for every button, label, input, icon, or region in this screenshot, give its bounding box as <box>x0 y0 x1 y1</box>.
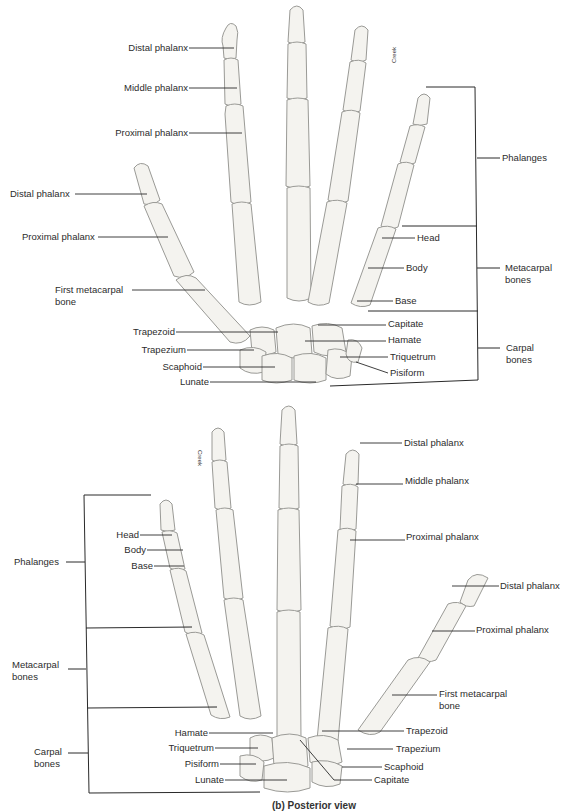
label-bottom-middle-phalanx: Middle phalanx <box>405 475 469 487</box>
top-hand-bones <box>134 6 430 383</box>
bottom-thumb <box>358 574 488 734</box>
group-top-metacarpal-line1: Metacarpal <box>505 262 552 274</box>
label-bottom-distal-phalanx-finger: Distal phalanx <box>404 437 464 449</box>
group-top-carpal-line1: Carpal <box>506 342 534 354</box>
label-bottom-scaphoid: Scaphoid <box>384 761 424 773</box>
label-top-head: Head <box>417 232 440 244</box>
group-bottom-carpal-line2: bones <box>34 758 60 770</box>
label-top-body: Body <box>406 262 428 274</box>
figure-caption: (b) Posterior view <box>272 800 356 811</box>
top-index-finger <box>222 23 261 305</box>
bottom-middle-finger <box>277 406 301 743</box>
artist-credit-top: Creek <box>391 47 397 63</box>
label-bottom-trapezium: Trapezium <box>396 743 441 755</box>
label-top-base: Base <box>395 295 417 307</box>
label-bottom-body: Body <box>100 544 146 556</box>
label-bottom-lunate: Lunate <box>160 774 224 786</box>
label-top-capitate: Capitate <box>388 318 423 330</box>
label-top-lunate: Lunate <box>160 376 209 388</box>
label-bottom-hamate: Hamate <box>140 727 208 739</box>
label-top-trapezoid: Trapezoid <box>110 326 175 338</box>
label-bottom-triquetrum: Triquetrum <box>140 742 214 754</box>
label-top-hamate: Hamate <box>388 334 421 346</box>
label-bottom-base: Base <box>100 560 153 572</box>
label-top-first-metacarpal-line2: bone <box>55 296 76 308</box>
label-bottom-proximal-phalanx-thumb: Proximal phalanx <box>476 624 549 636</box>
label-top-distal-phalanx-thumb: Distal phalanx <box>10 188 70 200</box>
label-bottom-first-metacarpal-line2: bone <box>439 700 460 712</box>
label-top-proximal-phalanx-finger: Proximal phalanx <box>90 127 188 139</box>
label-top-middle-phalanx: Middle phalanx <box>100 82 188 94</box>
group-bottom-carpal-line1: Carpal <box>34 746 62 758</box>
label-bottom-first-metacarpal-line1: First metacarpal <box>439 688 507 700</box>
top-middle-finger <box>286 6 311 301</box>
label-bottom-pisiform: Pisiform <box>150 758 219 770</box>
bottom-index-finger <box>317 450 359 743</box>
group-top-phalanges: Phalanges <box>502 152 547 164</box>
bottom-ring-finger <box>212 428 261 719</box>
label-top-first-metacarpal-line1: First metacarpal <box>55 284 123 296</box>
group-bottom-metacarpal-line2: bones <box>12 671 38 683</box>
label-bottom-distal-phalanx-thumb: Distal phalanx <box>500 580 560 592</box>
label-top-pisiform: Pisiform <box>390 367 424 379</box>
label-top-scaphoid: Scaphoid <box>140 361 202 373</box>
label-top-triquetrum: Triquetrum <box>390 351 436 363</box>
top-ring-finger <box>308 26 368 305</box>
group-top-metacarpal-line2: bones <box>505 274 531 286</box>
bottom-carpals <box>240 734 342 792</box>
label-bottom-trapezoid: Trapezoid <box>406 725 448 737</box>
group-bottom-metacarpal-line1: Metacarpal <box>12 659 59 671</box>
label-bottom-proximal-phalanx-finger: Proximal phalanx <box>406 531 479 543</box>
label-bottom-head: Head <box>100 529 139 541</box>
label-bottom-capitate: Capitate <box>374 774 409 786</box>
label-top-trapezium: Trapezium <box>120 344 186 356</box>
artist-credit-bottom: Creek <box>197 450 203 466</box>
label-top-proximal-phalanx-thumb: Proximal phalanx <box>22 231 95 243</box>
top-little-finger <box>351 94 430 307</box>
group-top-carpal-line2: bones <box>506 354 532 366</box>
label-top-distal-phalanx-finger: Distal phalanx <box>100 42 188 54</box>
group-bottom-phalanges: Phalanges <box>14 556 59 568</box>
